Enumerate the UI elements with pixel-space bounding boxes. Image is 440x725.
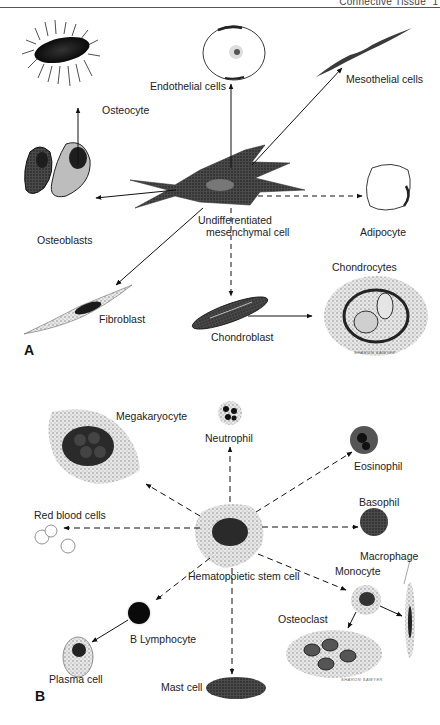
label-adipocyte: Adipocyte <box>360 226 406 238</box>
macrophage-leader-line <box>404 560 410 584</box>
label-osteocyte: Osteocyte <box>102 104 149 116</box>
arrow-to-mesothelial <box>252 68 342 165</box>
label-mast-cell: Mast cell <box>161 681 202 693</box>
osteocyte-cell-icon <box>22 20 100 86</box>
panel-label-a: A <box>24 342 34 358</box>
basophil-cell-icon <box>360 508 388 536</box>
chondroblast-cell-icon <box>189 291 270 335</box>
plasma-cell-icon <box>63 637 93 677</box>
mesothelial-cell-icon <box>316 28 412 77</box>
b-lymphocyte-cell-icon <box>125 599 153 627</box>
arrow-to-osteoclast <box>348 612 356 628</box>
arrow-to-plasma-cell <box>92 620 128 642</box>
eosinophil-cell-icon <box>350 426 378 454</box>
label-neutrophil: Neutrophil <box>205 432 253 444</box>
label-mesothelial-cells: Mesothelial cells <box>346 73 423 85</box>
label-fibroblast: Fibroblast <box>99 313 145 325</box>
label-mesenchymal-line2: mesenchymal cell <box>206 226 289 238</box>
chondrocytes-cell-icon <box>324 276 428 356</box>
osteoblasts-cell-icon <box>25 143 90 197</box>
osteoclast-cell-icon <box>286 630 382 678</box>
monocyte-cell-icon <box>351 585 381 615</box>
label-macrophage: Macrophage <box>360 550 418 562</box>
endothelial-cell-icon <box>203 26 265 80</box>
arrow-to-fibroblast <box>116 208 203 285</box>
panel-label-b: B <box>35 688 45 704</box>
label-hematopoietic-stem-cell: Hematopoietic stem cell <box>188 570 299 582</box>
arrow-to-megakaryocyte <box>146 484 200 516</box>
label-osteoclast: Osteoclast <box>278 613 328 625</box>
arrow-to-eosinophil <box>256 452 352 512</box>
label-chondrocytes: Chondrocytes <box>332 261 397 273</box>
macrophage-cell-icon <box>405 582 415 658</box>
label-chondroblast: Chondroblast <box>211 331 273 343</box>
label-megakaryocyte: Megakaryocyte <box>116 410 187 422</box>
mast-cell-icon <box>206 677 266 699</box>
label-red-blood-cells: Red blood cells <box>34 509 106 521</box>
label-mesenchymal-line1: Undifferentiated <box>198 214 272 226</box>
panel-b-diagram <box>35 401 415 699</box>
label-basophil: Basophil <box>359 496 399 508</box>
artist-signature-a: SHARON SAWYER <box>354 350 396 355</box>
mesenchymal-cell-icon <box>130 145 305 208</box>
red-blood-cells-icon <box>35 525 75 553</box>
label-eosinophil: Eosinophil <box>354 460 402 472</box>
neutrophil-cell-icon <box>218 401 242 425</box>
label-monocyte: Monocyte <box>335 565 381 577</box>
panel-a-diagram <box>22 20 428 356</box>
adipocyte-cell-icon <box>366 164 410 210</box>
artist-signature-b: SHARON SAWYER <box>341 677 383 682</box>
hematopoietic-stem-cell-icon <box>195 504 264 568</box>
label-endothelial-cells: Endothelial cells <box>150 80 226 92</box>
figure-canvas <box>0 0 440 725</box>
label-plasma-cell: Plasma cell <box>49 673 103 685</box>
label-osteoblasts: Osteoblasts <box>37 234 92 246</box>
label-b-lymphocyte: B Lymphocyte <box>130 633 196 645</box>
fibroblast-cell-icon <box>24 285 132 334</box>
arrow-to-macrophage <box>380 606 402 616</box>
